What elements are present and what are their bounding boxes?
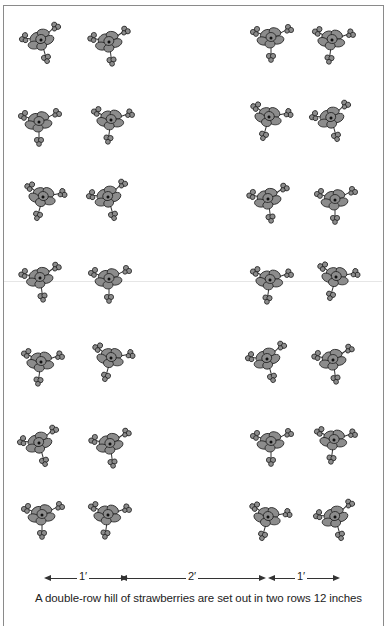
strawberry-plant-icon (241, 254, 299, 306)
figure-caption: A double-row hill of strawberries are se… (35, 592, 362, 604)
strawberry-plant-icon (14, 171, 72, 223)
strawberry-plant-icon (306, 174, 364, 226)
strawberry-plant-icon (79, 489, 137, 541)
arrow-right-icon (259, 575, 266, 581)
strawberry-plant-icon (307, 251, 365, 303)
strawberry-plant-icon (302, 92, 360, 144)
measure-label: 2′ (186, 570, 198, 582)
arrow-right-icon (333, 575, 340, 581)
strawberry-plant-icon (10, 417, 68, 469)
strawberry-plant-icon (10, 96, 68, 148)
measure-label: 1′ (295, 570, 307, 582)
strawberry-plant-icon (306, 491, 364, 543)
strawberry-plant-icon (81, 418, 139, 470)
strawberry-plant-icon (242, 12, 300, 64)
strawberry-plant-icon (79, 171, 137, 223)
strawberry-plant-icon (11, 252, 69, 304)
strawberry-plant-icon (12, 336, 70, 388)
strawberry-plant-icon (305, 414, 363, 466)
strawberry-plant-icon (82, 94, 140, 146)
strawberry-plant-icon (242, 416, 300, 468)
measure-center: 2′ (120, 572, 266, 584)
measure-left: 1′ (44, 572, 128, 584)
strawberry-plant-icon (12, 14, 70, 66)
strawberry-plant-icon (304, 334, 362, 386)
strawberry-plant-icon (238, 333, 296, 385)
measure-label: 1′ (77, 570, 89, 582)
strawberry-plant-icon (80, 16, 138, 68)
strawberry-plant-icon (239, 491, 297, 543)
strawberry-plant-icon (82, 332, 140, 384)
strawberry-plant-icon (13, 489, 71, 541)
strawberry-plant-icon (240, 91, 298, 143)
strawberry-plant-icon (80, 253, 138, 305)
strawberry-plant-icon (303, 14, 361, 66)
strawberry-plant-icon (239, 173, 297, 225)
measure-right: 1′ (268, 572, 340, 584)
